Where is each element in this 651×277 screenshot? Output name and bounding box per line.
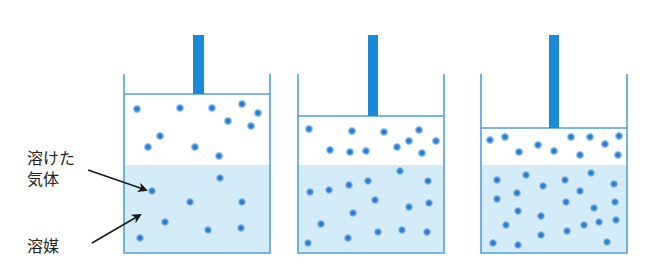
dissolved-gas-particle	[303, 238, 313, 248]
dissolved-gas-particle	[536, 230, 546, 240]
gas-particle	[237, 99, 247, 109]
gas-particle	[404, 136, 414, 146]
dissolved-gas-particle	[513, 206, 523, 216]
label-dissolved-gas-line1: 溶けた	[27, 148, 75, 169]
gas-particle	[614, 131, 624, 141]
gas-particle	[347, 126, 357, 136]
container-medium-pressure	[298, 35, 444, 253]
dissolved-gas-particle	[373, 227, 383, 237]
dissolved-gas-particle	[501, 220, 511, 230]
gas-particle	[253, 108, 263, 118]
dissolved-gas-particle	[316, 219, 326, 229]
dissolved-gas-particle	[324, 185, 334, 195]
gas-particle	[246, 121, 256, 131]
dissolved-gas-particle	[185, 197, 195, 207]
containers	[124, 35, 627, 253]
dissolved-gas-particle	[560, 175, 570, 185]
dissolved-gas-particle	[594, 217, 604, 227]
gas-particle	[143, 142, 153, 152]
dissolved-gas-particle	[305, 187, 315, 197]
gas-particle	[175, 103, 185, 113]
dissolved-gas-particle	[344, 180, 354, 190]
dissolved-gas-particle	[610, 197, 620, 207]
piston-rod	[549, 35, 559, 128]
gas-particle	[431, 136, 441, 146]
gas-particle	[345, 147, 355, 157]
dissolved-gas-particle	[363, 176, 373, 186]
dissolved-gas-particle	[575, 186, 585, 196]
gas-particle	[549, 146, 559, 156]
dissolved-gas-particle	[147, 186, 157, 196]
gas-particle	[514, 147, 524, 157]
gas-particle	[223, 116, 233, 126]
piston-rod	[193, 35, 204, 94]
dissolved-gas-particle	[343, 233, 353, 243]
gas-particle	[585, 132, 595, 142]
gas-particle	[613, 150, 623, 160]
dissolved-gas-particle	[397, 225, 407, 235]
dissolved-gas-particle	[492, 194, 502, 204]
dissolved-gas-particle	[492, 175, 502, 185]
dissolved-gas-particle	[404, 202, 414, 212]
gas-particle	[566, 132, 576, 142]
dissolved-gas-particle	[423, 176, 433, 186]
dissolved-gas-particle	[135, 233, 145, 243]
gas-particle	[575, 150, 585, 160]
dissolved-gas-particle	[562, 226, 572, 236]
gas-particle	[207, 103, 217, 113]
gas-particle	[325, 145, 335, 155]
label-dissolved-gas-line2: 気体	[27, 169, 75, 190]
gas-particle	[214, 151, 224, 161]
dissolved-gas-particle	[611, 215, 621, 225]
dissolved-gas-particle	[215, 173, 225, 183]
dissolved-gas-particle	[160, 217, 170, 227]
dissolved-gas-particle	[236, 223, 246, 233]
gas-particle	[155, 131, 165, 141]
gas-particle	[392, 142, 402, 152]
dissolved-gas-particle	[203, 225, 213, 235]
dissolved-gas-particle	[513, 240, 523, 250]
dissolved-gas-particle	[422, 227, 432, 237]
solvent-liquid	[124, 165, 270, 253]
gas-particle	[190, 142, 200, 152]
container-low-pressure	[124, 35, 270, 253]
gas-particle	[304, 124, 314, 134]
dissolved-gas-particle	[579, 220, 589, 230]
dissolved-gas-particle	[521, 170, 531, 180]
gas-particle	[500, 132, 510, 142]
dissolved-gas-particle	[609, 179, 619, 189]
gas-solubility-diagram	[0, 0, 651, 277]
dissolved-gas-particle	[589, 203, 599, 213]
dissolved-gas-particle	[237, 197, 247, 207]
gas-particle	[379, 127, 389, 137]
gas-particle	[485, 135, 495, 145]
gas-particle	[533, 140, 543, 150]
label-solvent: 溶媒	[27, 236, 59, 257]
dissolved-gas-particle	[395, 166, 405, 176]
gas-particle	[417, 148, 427, 158]
label-dissolved-gas: 溶けた 気体	[27, 148, 75, 190]
gas-particle	[361, 146, 371, 156]
dissolved-gas-particle	[536, 211, 546, 221]
dissolved-gas-particle	[348, 208, 358, 218]
dissolved-gas-particle	[538, 181, 548, 191]
piston-rod	[368, 35, 378, 116]
dissolved-gas-particle	[488, 238, 498, 248]
dissolved-gas-particle	[370, 195, 380, 205]
gas-particle	[414, 125, 424, 135]
dissolved-gas-particle	[561, 197, 571, 207]
dissolved-gas-particle	[586, 168, 596, 178]
dissolved-gas-particle	[424, 198, 434, 208]
gas-particle	[132, 104, 142, 114]
dissolved-gas-particle	[602, 237, 612, 247]
container-high-pressure	[481, 35, 627, 253]
dissolved-gas-particle	[512, 188, 522, 198]
gas-particle	[600, 139, 610, 149]
